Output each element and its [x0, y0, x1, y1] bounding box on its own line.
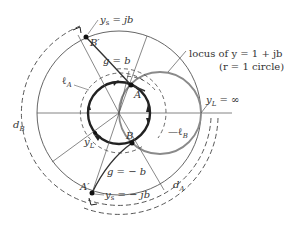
ys-bot-leader [94, 194, 104, 195]
point-b-prime [84, 35, 89, 40]
label-b: B [125, 130, 133, 141]
label-d-a: dA [173, 179, 184, 193]
la-leader [74, 85, 89, 90]
aprime-arrow [89, 198, 97, 205]
label-yl-inf: yL = ∞ [205, 94, 239, 108]
label-g-b: g = b [103, 55, 131, 66]
label-b-prime: B′ [89, 37, 100, 48]
point-b [130, 141, 135, 146]
label-a-prime: A′ [79, 181, 90, 192]
radial-to-bottom [119, 113, 164, 190]
label-locus-line1: locus of y = 1 + jb [189, 48, 282, 59]
radial-to-top [119, 36, 147, 113]
label-yl: yL [83, 136, 95, 150]
label-l-b: —ℓB [168, 126, 188, 140]
bprime-arrow [73, 27, 81, 33]
label-ys-bot: ys = − jb [104, 189, 150, 202]
label-a: A [133, 89, 141, 100]
db-dashed-arc [21, 26, 88, 203]
point-a-prime [90, 191, 95, 196]
label-g-neg-b: g = − b [107, 166, 146, 177]
smith-chart-diagram: ys = jb B′ g = b locus of y = 1 + jb (r … [0, 0, 285, 228]
point-a [129, 83, 134, 88]
ylinf-leader [201, 104, 208, 113]
label-ys-top: ys = jb [99, 14, 134, 27]
point-yl [93, 131, 97, 135]
label-d-b: dB [13, 119, 25, 133]
ys-top-leader [88, 20, 98, 34]
label-l-a: ℓA [62, 75, 72, 89]
label-locus-line2: (r = 1 circle) [219, 61, 284, 72]
